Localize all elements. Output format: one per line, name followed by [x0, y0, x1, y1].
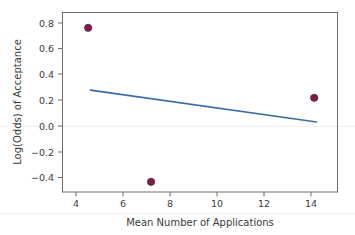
x-tick-label-2: 8 [167, 198, 173, 209]
y-tick-label-4: 0.0 [39, 121, 54, 132]
x-tick-label-1: 6 [120, 198, 126, 209]
y-tick-label-6: −0.4 [31, 172, 54, 183]
data-point-3 [311, 94, 318, 101]
y-axis-title: Log(Odds) of Acceptance [12, 39, 23, 165]
x-axis-tick-labels: 4 6 8 10 12 14 [73, 198, 317, 209]
data-point-1 [85, 24, 92, 31]
fitted-regression-line [90, 90, 316, 122]
y-tick-label-2: 0.4 [39, 69, 54, 80]
y-tick-label-0: 0.8 [39, 18, 54, 29]
scatter-plot-svg: 0.8 0.6 0.4 0.2 0.0 −0.2 −0.4 4 6 8 10 1… [0, 0, 355, 235]
x-axis-ticks [76, 192, 311, 197]
data-points [85, 24, 318, 185]
y-axis-tick-labels: 0.8 0.6 0.4 0.2 0.0 −0.2 −0.4 [31, 18, 54, 184]
x-tick-label-4: 12 [258, 198, 270, 209]
y-tick-label-1: 0.6 [39, 43, 54, 54]
x-tick-label-0: 4 [73, 198, 79, 209]
x-axis-title: Mean Number of Applications [126, 217, 274, 228]
x-tick-label-3: 10 [211, 198, 223, 209]
plot-frame [63, 13, 338, 193]
y-tick-label-3: 0.2 [39, 95, 54, 106]
chart-figure: 0.8 0.6 0.4 0.2 0.0 −0.2 −0.4 4 6 8 10 1… [0, 0, 355, 235]
y-tick-label-5: −0.2 [31, 147, 54, 158]
data-point-2 [147, 178, 154, 185]
x-tick-label-5: 14 [305, 198, 317, 209]
y-axis-ticks [58, 23, 63, 178]
